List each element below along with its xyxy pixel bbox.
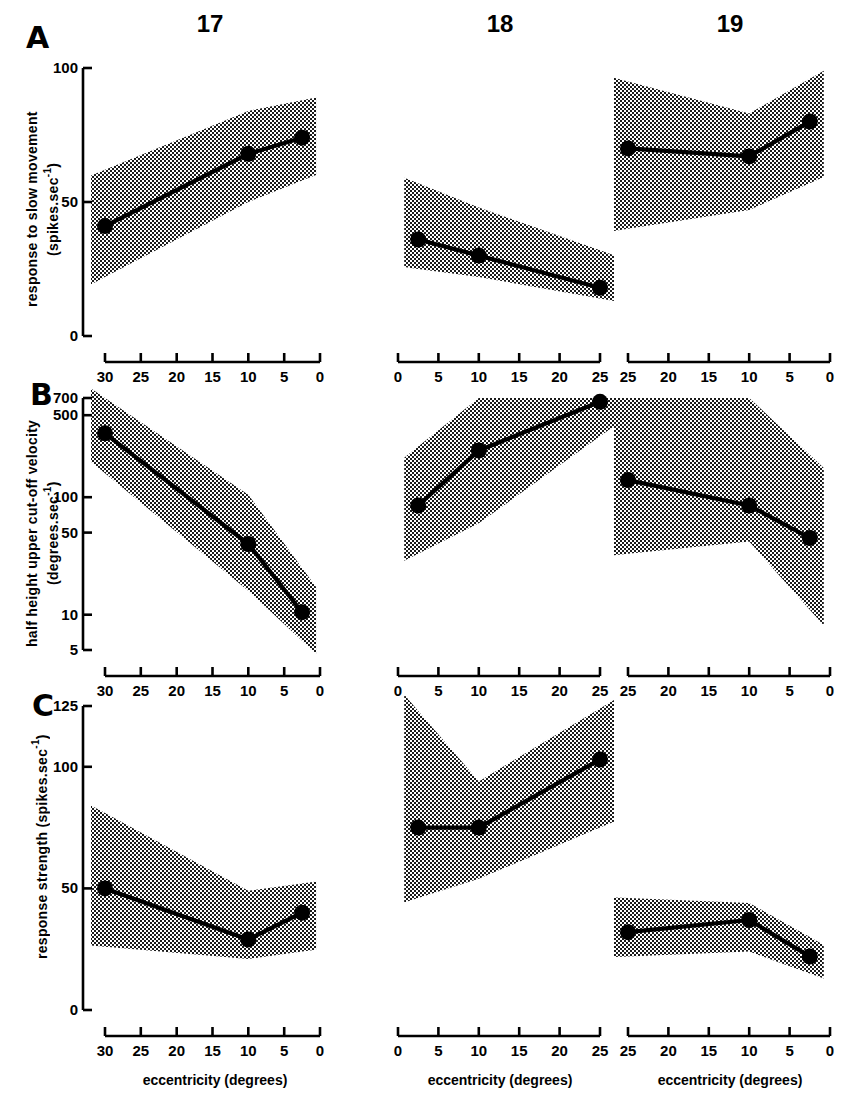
tick-label: 0 bbox=[316, 1042, 324, 1059]
confidence-band bbox=[614, 398, 824, 626]
tick-label: 10 bbox=[470, 368, 487, 385]
tick-label: 20 bbox=[660, 368, 677, 385]
data-point bbox=[741, 912, 757, 928]
tick-label: 10 bbox=[470, 1042, 487, 1059]
data-point bbox=[294, 604, 310, 620]
panel-b-17 bbox=[83, 389, 320, 676]
tick-label: 15 bbox=[204, 1042, 221, 1059]
tick-label: 15 bbox=[700, 368, 717, 385]
tick-label: 25 bbox=[592, 368, 609, 385]
panel-a-19 bbox=[614, 71, 830, 362]
tick-label: 50 bbox=[61, 879, 78, 896]
data-point bbox=[97, 218, 113, 234]
y-axis-label-a-text: response to slow movement bbox=[24, 111, 40, 307]
tick-label: 15 bbox=[511, 368, 528, 385]
data-point bbox=[410, 498, 426, 514]
data-point bbox=[97, 425, 113, 441]
tick-label: 20 bbox=[551, 368, 568, 385]
tick-label: 5 bbox=[70, 641, 78, 658]
data-point bbox=[240, 146, 256, 162]
tick-label: 0 bbox=[826, 682, 834, 699]
tick-label: 100 bbox=[53, 758, 78, 775]
tick-label: 15 bbox=[204, 368, 221, 385]
x-axis-label-col-17: eccentricity (degrees) bbox=[100, 1072, 330, 1088]
y-axis-label-a-units-text: (spikes.sec bbox=[45, 177, 61, 256]
tick-label: 5 bbox=[280, 1042, 288, 1059]
tick-label: 25 bbox=[132, 1042, 149, 1059]
y-axis-label-a-tail: ) bbox=[45, 162, 61, 167]
tick-label: 15 bbox=[511, 682, 528, 699]
figure-canvas: 0501003025201510500510152025252015105051… bbox=[0, 0, 842, 1099]
tick-label: 20 bbox=[660, 1042, 677, 1059]
data-point bbox=[410, 820, 426, 836]
data-point bbox=[592, 280, 608, 296]
data-point bbox=[471, 820, 487, 836]
tick-label: 10 bbox=[240, 368, 257, 385]
tick-label: 10 bbox=[741, 368, 758, 385]
tick-label: 30 bbox=[97, 368, 114, 385]
confidence-band bbox=[91, 97, 316, 284]
tick-label: 5 bbox=[280, 368, 288, 385]
tick-label: 25 bbox=[132, 682, 149, 699]
tick-label: 10 bbox=[741, 1042, 758, 1059]
data-point bbox=[294, 130, 310, 146]
tick-label: 0 bbox=[394, 1042, 402, 1059]
y-axis-label-a-units: (spikes.sec-1) bbox=[45, 162, 61, 255]
tick-label: 0 bbox=[316, 682, 324, 699]
tick-label: 15 bbox=[700, 682, 717, 699]
tick-label: 25 bbox=[620, 368, 637, 385]
data-point bbox=[240, 932, 256, 948]
tick-label: 0 bbox=[826, 368, 834, 385]
tick-label: 5 bbox=[434, 368, 442, 385]
data-point bbox=[802, 530, 818, 546]
column-header-19: 19 bbox=[670, 10, 790, 38]
data-point bbox=[620, 140, 636, 156]
confidence-band bbox=[404, 398, 614, 561]
data-point bbox=[592, 394, 608, 410]
tick-label: 10 bbox=[240, 1042, 257, 1059]
tick-label: 0 bbox=[70, 327, 78, 344]
tick-label: 10 bbox=[741, 682, 758, 699]
tick-label: 10 bbox=[470, 682, 487, 699]
tick-label: 30 bbox=[97, 1042, 114, 1059]
tick-label: 20 bbox=[168, 368, 185, 385]
panel-c-18 bbox=[398, 695, 614, 1036]
tick-label: 5 bbox=[785, 368, 793, 385]
tick-label: 125 bbox=[53, 697, 78, 714]
multi-panel-plot: 0501003025201510500510152025252015105051… bbox=[0, 0, 842, 1099]
tick-label: 25 bbox=[132, 368, 149, 385]
y-axis-label-c: response strength (spikes.sec-1) bbox=[30, 706, 56, 988]
column-header-18: 18 bbox=[440, 10, 560, 38]
tick-label: 0 bbox=[70, 1001, 78, 1018]
y-axis-label-b-tail: ) bbox=[45, 481, 61, 486]
tick-label: 5 bbox=[434, 1042, 442, 1059]
tick-label: 20 bbox=[168, 682, 185, 699]
panel-letter-a: A bbox=[26, 20, 49, 55]
tick-label: 5 bbox=[785, 1042, 793, 1059]
y-axis-label-b-sup: -1 bbox=[42, 486, 53, 496]
tick-label: 30 bbox=[97, 682, 114, 699]
tick-label: 15 bbox=[511, 1042, 528, 1059]
x-axis-label-col-18: eccentricity (degrees) bbox=[395, 1072, 605, 1088]
tick-label: 25 bbox=[592, 682, 609, 699]
y-axis-label-b: half height upper cut-off velocity (degr… bbox=[24, 392, 70, 674]
tick-label: 20 bbox=[660, 682, 677, 699]
data-point bbox=[741, 498, 757, 514]
tick-label: 5 bbox=[785, 682, 793, 699]
tick-label: 10 bbox=[240, 682, 257, 699]
tick-label: 0 bbox=[316, 368, 324, 385]
panel-a-18 bbox=[398, 178, 614, 362]
tick-label: 0 bbox=[394, 368, 402, 385]
panel-c-19 bbox=[614, 898, 830, 1036]
y-axis-label-a-sup: -1 bbox=[42, 167, 53, 177]
tick-label: 15 bbox=[700, 1042, 717, 1059]
tick-label: 15 bbox=[204, 682, 221, 699]
data-point bbox=[741, 148, 757, 164]
y-axis-label-c-sup: -1 bbox=[30, 740, 41, 750]
data-point bbox=[802, 949, 818, 965]
data-point bbox=[294, 905, 310, 921]
data-point bbox=[620, 924, 636, 940]
panel-a-17 bbox=[83, 68, 320, 362]
data-point bbox=[592, 752, 608, 768]
data-point bbox=[97, 880, 113, 896]
